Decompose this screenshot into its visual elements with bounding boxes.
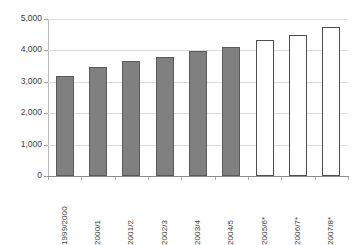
y-axis-tick-label: 1,000 <box>0 139 42 149</box>
x-axis-tick-mark <box>215 177 216 180</box>
bar <box>189 51 207 176</box>
y-axis-tick-label: 2,000 <box>0 107 42 117</box>
bar <box>289 35 307 176</box>
bar <box>156 57 174 176</box>
x-axis-tick-mark <box>248 177 249 180</box>
x-axis-tick-mark <box>181 177 182 180</box>
x-axis-label-wrap: 2006/7* <box>293 180 305 238</box>
x-axis-label-wrap: 2004/5 <box>226 180 238 238</box>
gridline <box>48 19 348 20</box>
x-axis-tick-label: 2003/4 <box>193 220 202 245</box>
x-axis-label-wrap: 2000/1 <box>93 180 105 238</box>
x-axis-tick-label: 2001/2 <box>126 220 135 245</box>
x-axis-label-wrap: 2003/4 <box>193 180 205 238</box>
y-axis-tick-label: 3,000 <box>0 76 42 86</box>
x-axis-tick-mark <box>48 177 49 180</box>
y-axis-tick-label: 0 <box>0 170 42 180</box>
x-axis-label-wrap: 2001/2 <box>126 180 138 238</box>
bar <box>89 67 107 176</box>
x-axis-tick-mark <box>148 177 149 180</box>
x-axis-label-wrap: 2002/3 <box>160 180 172 238</box>
x-axis-tick-label: 2007/8* <box>326 217 335 245</box>
x-axis-label-wrap: 2007/8* <box>326 180 338 238</box>
x-axis-tick-label: 1999/2000 <box>60 206 69 245</box>
bar <box>56 76 74 176</box>
x-axis-tick-mark <box>348 177 349 180</box>
x-axis-tick-label: 2004/5 <box>226 220 235 245</box>
x-axis-tick-label: 2006/7* <box>293 217 302 245</box>
x-axis-tick-label: 2005/6* <box>260 217 269 245</box>
x-axis-tick-mark <box>315 177 316 180</box>
x-axis-label-wrap: 1999/2000 <box>60 180 72 238</box>
bar <box>222 47 240 176</box>
y-axis-tick-label: 4,000 <box>0 44 42 54</box>
x-axis-tick-label: 2000/1 <box>93 220 102 245</box>
y-axis-tick-label: 5,000 <box>0 13 42 23</box>
bar <box>122 61 140 176</box>
x-axis-line <box>48 176 349 177</box>
x-axis-tick-label: 2002/3 <box>160 220 169 245</box>
plot-area <box>48 19 348 176</box>
x-axis-label-wrap: 2005/6* <box>260 180 272 238</box>
bar <box>256 40 274 176</box>
bar <box>322 27 340 176</box>
x-axis-tick-mark <box>81 177 82 180</box>
x-axis-tick-mark <box>281 177 282 180</box>
x-axis-tick-mark <box>115 177 116 180</box>
